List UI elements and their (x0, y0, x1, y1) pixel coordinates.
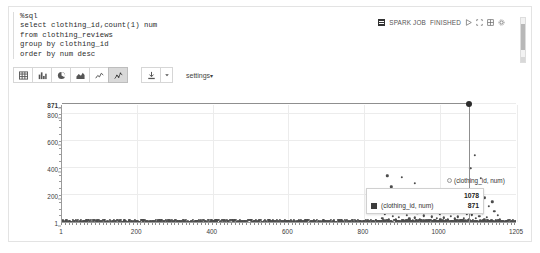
x-axis-minor-tick (435, 223, 436, 225)
code-editor[interactable]: %sql select clothing_id,count(1) num fro… (9, 7, 531, 59)
chart-toolbar[interactable]: settings▾ (13, 64, 213, 86)
x-axis-minor-tick (61, 223, 62, 225)
line-chart-icon (95, 71, 104, 80)
x-axis-minor-tick (496, 223, 497, 225)
download-group[interactable] (141, 67, 172, 83)
area-chart-icon (76, 71, 85, 80)
crosshair-horizontal (62, 103, 469, 104)
scrollbar-down-arrow[interactable] (521, 57, 525, 62)
code-line: %sql (20, 12, 373, 21)
x-axis-minor-tick (246, 223, 247, 225)
x-axis-minor-tick (114, 223, 115, 225)
x-axis-minor-tick (125, 223, 126, 225)
x-axis-minor-tick (386, 223, 387, 225)
x-axis-minor-tick (163, 223, 164, 225)
x-axis-tick-label: 400 (206, 228, 217, 235)
x-axis-minor-tick (511, 223, 512, 225)
x-axis-minor-tick (499, 223, 500, 225)
x-axis-minor-tick (303, 223, 304, 225)
x-axis-minor-tick (224, 223, 225, 225)
x-axis-minor-tick (416, 223, 417, 225)
x-axis-minor-tick (155, 223, 156, 225)
x-axis-minor-tick (469, 223, 470, 225)
x-axis-minor-tick (72, 223, 73, 225)
chart-type-bar-button[interactable] (32, 67, 52, 83)
x-axis-minor-tick (87, 223, 88, 225)
x-axis-tick-label: 200 (131, 228, 142, 235)
legend-label: (clothing_id, num) (454, 177, 505, 184)
x-axis-minor-tick (378, 223, 379, 225)
x-axis-minor-tick (484, 223, 485, 225)
x-axis-tick-label: 1 (59, 228, 63, 235)
chart-type-table-button[interactable] (13, 67, 33, 83)
x-axis-minor-tick (186, 223, 187, 225)
download-button[interactable] (141, 67, 161, 83)
code-line: order by num desc (20, 50, 373, 59)
x-axis-minor-tick (152, 223, 153, 225)
tooltip-series-name: (clothing_id, num) (381, 201, 464, 210)
chart-type-group[interactable] (13, 67, 127, 83)
x-axis-minor-tick (295, 223, 296, 225)
x-axis-minor-tick (310, 223, 311, 225)
data-point (405, 214, 407, 216)
chart-legend[interactable]: (clothing_id, num) (447, 177, 505, 184)
chart-type-pie-button[interactable] (51, 67, 71, 83)
scatter-chart[interactable]: 1200400600800871 120040060080010001205 (… (9, 91, 531, 242)
data-point (484, 196, 486, 198)
grid-icon[interactable] (487, 19, 494, 26)
data-point (430, 215, 432, 217)
editor-scrollbar[interactable] (520, 17, 526, 63)
download-dropdown-button[interactable] (160, 67, 173, 83)
run-icon[interactable] (465, 19, 472, 26)
spark-job-icon (378, 19, 385, 26)
x-axis-minor-tick (189, 223, 190, 225)
x-axis-minor-tick (258, 223, 259, 225)
spark-job-label: SPARK JOB (389, 19, 426, 26)
chevron-down-icon (164, 72, 170, 78)
x-axis-minor-tick (95, 223, 96, 225)
x-axis-minor-tick (110, 223, 111, 225)
x-axis-minor-tick (480, 223, 481, 225)
data-point (391, 215, 393, 217)
x-axis-minor-tick (360, 223, 361, 225)
x-axis-minor-tick (507, 223, 508, 225)
settings-label: settings (186, 72, 210, 79)
x-axis-minor-tick (171, 223, 172, 225)
x-axis-minor-tick (197, 223, 198, 225)
expand-icon[interactable] (476, 19, 483, 26)
x-axis-minor-tick (394, 223, 395, 225)
x-axis-minor-tick (261, 223, 262, 225)
x-axis-minor-tick (428, 223, 429, 225)
x-axis-minor-tick (250, 223, 251, 225)
data-point (474, 154, 476, 156)
chart-type-area-button[interactable] (70, 67, 90, 83)
data-point (478, 215, 480, 217)
x-axis-tick-label: 800 (358, 228, 369, 235)
x-axis-minor-tick (273, 223, 274, 225)
chart-type-line-button[interactable] (89, 67, 109, 83)
highlighted-data-point[interactable] (466, 101, 472, 107)
sql-code-block[interactable]: %sql select clothing_id,count(1) num fro… (13, 12, 373, 59)
x-axis-minor-tick (216, 223, 217, 225)
x-axis-minor-tick (106, 223, 107, 225)
x-axis-tick-label: 1205 (509, 228, 523, 235)
x-axis-minor-tick (363, 223, 364, 225)
chart-type-scatter-button[interactable] (108, 67, 128, 83)
x-axis-minor-tick (431, 223, 432, 225)
editor-scrollbar-thumb[interactable] (521, 24, 525, 50)
gear-icon[interactable] (498, 19, 505, 26)
notebook-paragraph: %sql select clothing_id,count(1) num fro… (8, 6, 532, 242)
y-axis-tick-label: 871 (47, 102, 58, 109)
data-point (386, 175, 388, 177)
x-axis-minor-tick (462, 223, 463, 225)
code-line: group by clothing_id (20, 40, 373, 49)
chart-tooltip: 1078 (clothing_id, num) 871 (366, 188, 484, 214)
data-point (497, 214, 499, 216)
x-axis-minor-tick (201, 223, 202, 225)
x-axis-minor-tick (159, 223, 160, 225)
data-point (493, 210, 495, 212)
settings-button[interactable]: settings▾ (186, 72, 213, 79)
data-point (422, 214, 424, 216)
tooltip-x-value: 1078 (371, 191, 479, 200)
data-point (487, 205, 489, 207)
